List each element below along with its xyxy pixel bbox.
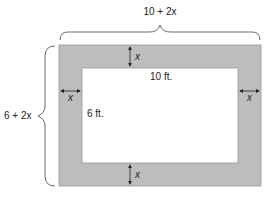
border-left-label: x <box>67 92 74 103</box>
border-bottom-label: x <box>134 169 141 180</box>
inner-width-label: 10 ft. <box>150 71 172 82</box>
outer-height-label: 6 + 2x <box>4 110 32 121</box>
diagram-canvas: 10 + 2x 6 + 2x x x x x 10 ft. 6 ft. <box>0 0 264 197</box>
border-right-label: x <box>246 92 253 103</box>
outer-width-label: 10 + 2x <box>143 6 176 17</box>
inner-rect <box>82 68 238 163</box>
left-brace <box>38 46 55 186</box>
border-top-label: x <box>134 51 141 62</box>
inner-height-label: 6 ft. <box>87 108 104 119</box>
top-brace <box>60 25 260 40</box>
